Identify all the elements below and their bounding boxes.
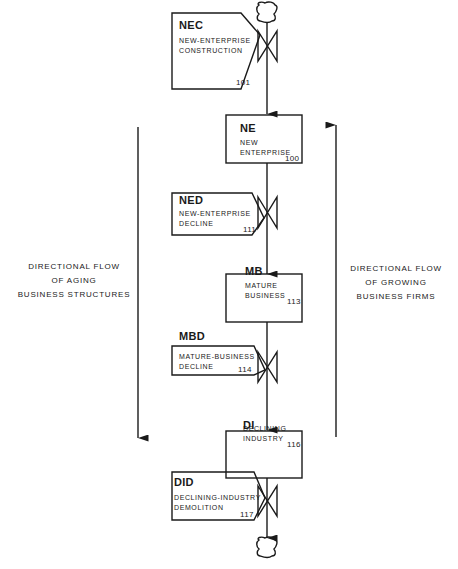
rate-number-did: 117: [240, 511, 254, 519]
level-code-mb: MB: [245, 266, 263, 277]
growing-flow-line3: BUSINESS FIRMS: [340, 290, 452, 304]
rate-name-did-line1: DECLINING-INDUSTRY: [174, 493, 261, 503]
rate-code-ned: NED: [179, 195, 203, 206]
rate-code-did: DID: [174, 477, 194, 488]
rate-number-ned: 111: [243, 226, 256, 234]
rate-name-nec-line2: CONSTRUCTION: [179, 46, 243, 56]
level-code-ne: NE: [240, 123, 256, 134]
level-name-mb-line2: BUSINESS: [245, 291, 285, 301]
rate-name-ned-line2: DECLINE: [179, 219, 214, 229]
rate-number-nec: 101: [236, 79, 250, 87]
rate-name-mbd-line2: DECLINE: [179, 362, 214, 372]
level-number-ne: 100: [285, 155, 299, 163]
level-name-di-line1: DECLINING: [243, 424, 287, 434]
level-name-ne-line2: ENTERPRISE: [240, 148, 291, 158]
level-name-di-line2: INDUSTRY: [243, 434, 283, 444]
rate-code-mbd: MBD: [179, 331, 205, 342]
aging-flow-annotation: DIRECTIONAL FLOW OF AGING BUSINESS STRUC…: [14, 260, 134, 302]
rate-name-did-line2: DEMOLITION: [174, 503, 224, 513]
aging-flow-line3: BUSINESS STRUCTURES: [14, 288, 134, 302]
level-number-mb: 113: [287, 298, 301, 306]
source-cloud-icon: [257, 2, 277, 23]
aging-flow-line2: OF AGING: [14, 274, 134, 288]
rate-name-ned-line1: NEW-ENTERPRISE: [179, 209, 251, 219]
level-name-mb-line1: MATURE: [245, 281, 278, 291]
aging-flow-line1: DIRECTIONAL FLOW: [14, 260, 134, 274]
growing-flow-line2: OF GROWING: [340, 276, 452, 290]
rate-code-nec: NEC: [179, 20, 203, 31]
sink-cloud-icon: [257, 537, 277, 558]
rate-name-nec-line1: NEW-ENTERPRISE: [179, 36, 251, 46]
growing-flow-annotation: DIRECTIONAL FLOW OF GROWING BUSINESS FIR…: [340, 262, 452, 304]
growing-flow-line1: DIRECTIONAL FLOW: [340, 262, 452, 276]
level-name-ne-line1: NEW: [240, 138, 258, 148]
level-number-di: 116: [287, 441, 301, 449]
rate-number-mbd: 114: [238, 366, 252, 374]
rate-name-mbd-line1: MATURE-BUSINESS: [179, 352, 255, 362]
